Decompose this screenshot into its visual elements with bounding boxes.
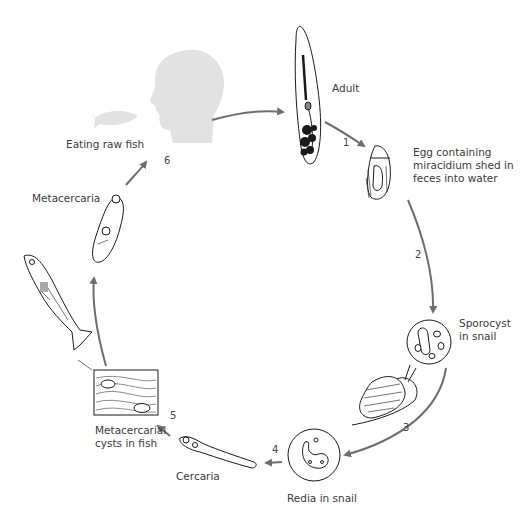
cercaria-illustration <box>180 437 256 468</box>
fish-muscle-block-illustration <box>94 370 158 415</box>
human-head-silhouette <box>150 50 224 143</box>
step-number-1: 1 <box>343 137 349 148</box>
step-number-3: 3 <box>403 422 409 433</box>
metacercaria-illustration <box>93 195 124 262</box>
label-egg: Egg containing miracidium shed in feces … <box>413 146 514 185</box>
label-cysts: Metacercarial cysts in fish <box>95 424 166 450</box>
arrow-4 <box>266 462 282 463</box>
arrow-6 <box>126 162 146 185</box>
label-redia: Redia in snail <box>287 492 357 505</box>
step-number-5: 5 <box>170 410 176 421</box>
raw-fish-silhouette <box>93 111 138 128</box>
label-metacercaria: Metacercaria <box>32 192 100 205</box>
arrow-to-adult <box>212 111 283 120</box>
snail-illustration <box>352 365 417 425</box>
life-cycle-diagram: Adult Egg containing miracidium shed in … <box>0 0 525 522</box>
egg-illustration <box>366 146 390 199</box>
label-sporocyst: Sporocyst in snail <box>459 317 511 343</box>
step-number-2: 2 <box>415 249 421 260</box>
fish-connector-line <box>78 360 92 370</box>
step-number-4: 4 <box>272 444 278 455</box>
redia-illustration <box>288 429 340 481</box>
step-number-6: 6 <box>164 155 170 166</box>
diagram-artwork <box>0 0 525 522</box>
sporocyst-illustration <box>407 320 451 364</box>
label-adult: Adult <box>332 82 359 95</box>
label-cercaria: Cercaria <box>176 470 220 483</box>
fish-illustration <box>24 255 92 350</box>
adult-fluke-illustration <box>295 26 320 164</box>
arrow-to-metacercaria <box>94 278 107 366</box>
label-eating: Eating raw fish <box>66 138 144 151</box>
